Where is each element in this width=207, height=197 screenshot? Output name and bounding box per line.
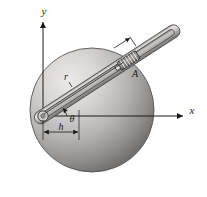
slider-position-arrow <box>114 38 130 48</box>
slider-position-arrow-group <box>114 37 136 48</box>
y-axis-label: y <box>41 5 47 17</box>
x-axis-label: x <box>189 104 195 116</box>
mechanics-diagram: r θ h y x A <box>0 0 207 197</box>
slider-position-tick <box>130 37 136 46</box>
slider-block-label: A <box>131 68 139 79</box>
theta-label: θ <box>70 113 75 124</box>
r-label: r <box>64 71 68 82</box>
h-label: h <box>59 121 64 132</box>
figure-container: r θ h y x A <box>0 0 207 197</box>
